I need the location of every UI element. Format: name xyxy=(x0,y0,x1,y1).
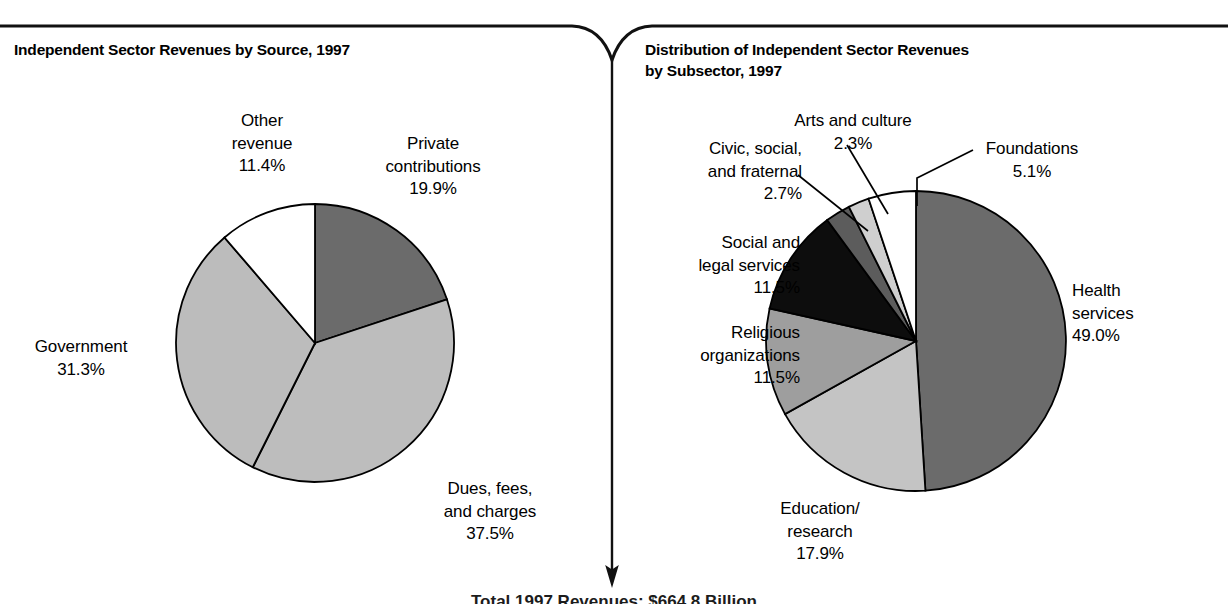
pie-chart-revenues-by-source xyxy=(174,202,456,484)
pie-label-foundations: Foundations 5.1% xyxy=(958,138,1106,183)
panel-title-right: Distribution of Independent Sector Reven… xyxy=(645,39,969,81)
arrow-head-icon xyxy=(605,565,619,588)
pie-label-government: Government 31.3% xyxy=(0,336,168,381)
pie-label-social-and-legal-services: Social and legal services 11.5% xyxy=(634,232,800,300)
leader-line-civic xyxy=(798,175,868,231)
pie-label-health-services: Health services 49.0% xyxy=(1072,280,1206,348)
pie-label-private-contributions: Private contributions 19.9% xyxy=(349,133,517,201)
panel-title-left: Independent Sector Revenues by Source, 1… xyxy=(14,39,350,60)
pie-label-religious-organizations: Religious organizations 11.5% xyxy=(630,322,800,390)
figure-root: Independent Sector Revenues by Source, 1… xyxy=(0,0,1228,604)
leader-line-arts xyxy=(847,145,888,214)
pie-label-other-revenue: Other revenue 11.4% xyxy=(196,110,328,178)
pie-label-dues-fees-and-charges: Dues, fees, and charges 37.5% xyxy=(402,478,578,546)
pie-label-civic-social-and-fraternal: Civic, social, and fraternal 2.7% xyxy=(626,138,802,206)
figure-bottom-caption: Total 1997 Revenues: $664.8 Billion xyxy=(0,592,1228,604)
pie-label-education-research: Education/ research 17.9% xyxy=(740,498,900,566)
